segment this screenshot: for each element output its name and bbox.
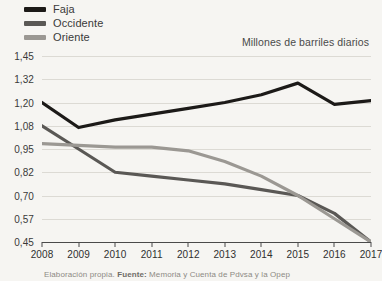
legend-label-occidente: Occidente (53, 18, 103, 29)
x-axis-tick-label: 2011 (141, 249, 163, 260)
legend-item-occidente: Occidente (24, 17, 103, 30)
x-axis-ticks (42, 242, 371, 247)
x-axis-tick (224, 242, 225, 247)
series-line-occidente (42, 126, 371, 242)
y-axis-tick-label: 0,95 (14, 144, 34, 155)
chart-footer: Elaboración propia. Fuente: Memoria y Cu… (44, 270, 371, 279)
x-axis-tick-label: 2009 (67, 249, 90, 260)
legend-swatch-oriente (24, 35, 46, 40)
legend-label-oriente: Oriente (53, 32, 90, 43)
x-axis-tick-label: 2015 (287, 249, 310, 260)
chart-subtitle: Millones de barriles diarios (242, 36, 369, 48)
footer-prefix: Elaboración propia. (44, 270, 117, 279)
plot-area (42, 56, 371, 242)
x-axis-tick (334, 242, 335, 247)
y-axis-tick-label: 1,32 (14, 74, 34, 85)
x-axis-tick (371, 242, 372, 247)
x-axis-tick-label: 2013 (213, 249, 236, 260)
footer-source-label: Fuente: (117, 270, 147, 279)
series-lines (42, 56, 371, 242)
y-axis-tick-label: 1,45 (14, 51, 34, 62)
y-axis-tick-label: 1,08 (14, 120, 34, 131)
x-axis-tick-label: 2010 (104, 249, 127, 260)
x-axis-tick-label: 2014 (250, 249, 273, 260)
x-axis-tick-label: 2016 (323, 249, 346, 260)
x-axis-tick (151, 242, 152, 247)
y-axis-tick-label: 0,70 (14, 190, 34, 201)
y-axis-tick-label: 0,82 (14, 167, 34, 178)
legend-label-faja: Faja (53, 4, 75, 15)
y-axis-labels: 1,451,321,201,080,950,820,700,570,45 (0, 56, 40, 242)
x-axis-tick (261, 242, 262, 247)
x-axis-labels: 2008200920102011201220132014201520162017 (42, 249, 371, 263)
legend-swatch-faja (24, 7, 46, 12)
x-axis-tick-label: 2012 (177, 249, 200, 260)
x-axis-tick (115, 242, 116, 247)
x-axis-tick (42, 242, 43, 247)
x-axis-tick (188, 242, 189, 247)
y-axis-tick-label: 0,45 (14, 237, 34, 248)
series-line-faja (42, 83, 371, 127)
legend-swatch-occidente (24, 21, 46, 26)
footer-suffix: Memoria y Cuenta de Pdvsa y la Opep (147, 270, 290, 279)
x-axis-tick (297, 242, 298, 247)
y-axis-tick-label: 0,57 (14, 213, 34, 224)
x-axis-tick-label: 2017 (360, 249, 382, 260)
x-axis-tick-label: 2008 (31, 249, 54, 260)
x-axis-tick (78, 242, 79, 247)
legend-item-faja: Faja (24, 3, 103, 16)
y-axis-tick-label: 1,20 (14, 97, 34, 108)
legend-item-oriente: Oriente (24, 31, 103, 44)
chart-legend: Faja Occidente Oriente (24, 3, 103, 45)
